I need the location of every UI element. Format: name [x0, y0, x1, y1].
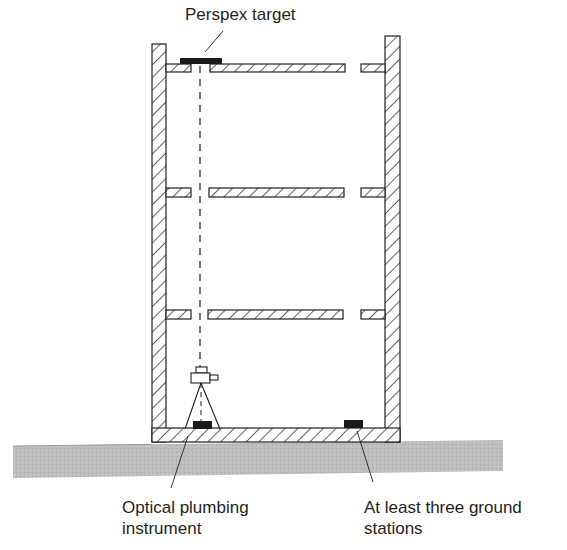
ground-station-2: [344, 420, 363, 428]
optical-plumbing-instrument: [185, 367, 220, 429]
floor-top: [166, 64, 385, 72]
ground-stations-label: At least three ground stations: [364, 497, 522, 539]
instrument-label: Optical plumbing instrument: [122, 497, 249, 539]
leader-line-target: [205, 31, 223, 52]
left-wall: [152, 44, 166, 442]
ground: [13, 440, 503, 478]
diagram-canvas: [0, 0, 567, 550]
ground-station-1: [193, 421, 212, 429]
floor-first: [166, 310, 385, 319]
instrument-label-line1: Optical plumbing: [122, 497, 249, 518]
instrument-label-line2: instrument: [122, 518, 249, 539]
perspex-target: [180, 58, 222, 64]
perspex-target-label: Perspex target: [185, 4, 296, 25]
right-wall: [385, 36, 400, 442]
ground-stations-label-line1: At least three ground: [364, 497, 522, 518]
base-slab: [152, 428, 400, 442]
floor-second: [166, 188, 385, 197]
ground-stations-label-line2: stations: [364, 518, 522, 539]
